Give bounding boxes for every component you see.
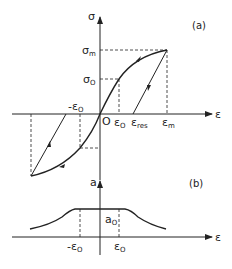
a-0-label: aO — [105, 213, 118, 227]
eps-0-label-b: εO — [114, 240, 126, 254]
a-curve — [30, 209, 166, 229]
loading-curve — [31, 50, 167, 176]
epsilon-axis-label-b: ε — [215, 231, 221, 244]
eps-m-label: εm — [162, 116, 175, 130]
guide-lines-a — [31, 50, 167, 176]
sigma-0-label: σO — [83, 73, 96, 87]
sigma-axis-label: σ — [88, 10, 95, 23]
panel-b: a ε (b) aO -εO εO — [12, 176, 221, 255]
eps-0-label: εO — [114, 116, 126, 130]
panel-a: σ ε (a) O σm σO εO -εO εres εm — [12, 10, 221, 180]
panel-tag-b: (b) — [189, 178, 203, 189]
arrow-down-unload-icon — [147, 85, 151, 91]
hysteresis-figure: σ ε (a) O σm σO εO -εO εres εm a — [0, 0, 232, 269]
sigma-m-label: σm — [82, 44, 96, 58]
eps-res-label: εres — [131, 116, 148, 130]
origin-label: O — [102, 115, 111, 128]
epsilon-axis-label-a: ε — [215, 108, 221, 121]
neg-eps-0-label: -εO — [68, 100, 84, 114]
panel-tag-a: (a) — [192, 20, 206, 31]
neg-eps-0-label-b: -εO — [67, 240, 83, 254]
a-axis-label: a — [90, 176, 97, 189]
